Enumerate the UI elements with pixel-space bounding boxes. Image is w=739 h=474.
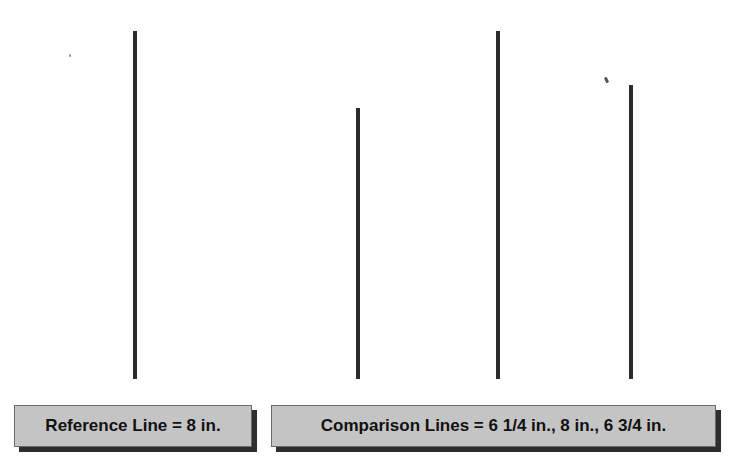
comparison-label-box: Comparison Lines = 6 1/4 in., 8 in., 6 3… (271, 405, 716, 447)
diagram-canvas: Reference Line = 8 in. Comparison Lines … (0, 0, 739, 474)
comparison-line-3 (629, 85, 633, 379)
comparison-label: Comparison Lines = 6 1/4 in., 8 in., 6 3… (321, 416, 666, 436)
comparison-line-1 (356, 108, 360, 379)
scan-speck (69, 54, 71, 57)
scan-speck (604, 77, 609, 84)
reference-line (133, 31, 137, 379)
reference-label-box: Reference Line = 8 in. (14, 405, 252, 447)
reference-label: Reference Line = 8 in. (45, 416, 220, 436)
comparison-line-2 (496, 31, 500, 379)
